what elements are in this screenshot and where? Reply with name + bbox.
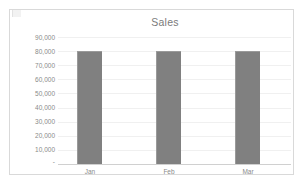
y-tick-label: 90,000	[11, 34, 55, 41]
x-tick-label-feb: Feb	[139, 168, 199, 176]
y-tick-label: 20,000	[11, 132, 55, 139]
gridline	[58, 37, 291, 38]
x-tick-label-mar: Mar	[218, 168, 278, 176]
y-tick-label: 50,000	[11, 90, 55, 97]
y-tick-label: 40,000	[11, 104, 55, 111]
y-tick-label: 10,000	[11, 146, 55, 153]
chart-title: Sales	[40, 14, 290, 31]
y-tick-label: 80,000	[11, 48, 55, 55]
y-tick-label: -	[11, 158, 55, 165]
y-tick-label: 30,000	[11, 118, 55, 125]
y-tick-label: 70,000	[11, 62, 55, 69]
y-tick-label: 60,000	[11, 76, 55, 83]
sales-bar-chart[interactable]: Sales 90,000 80,000 70,000 60,000 50,000…	[9, 9, 294, 175]
category-axis-line	[58, 164, 291, 165]
bar-jan[interactable]	[77, 51, 102, 164]
bar-mar[interactable]	[235, 51, 260, 164]
bar-feb[interactable]	[156, 51, 181, 164]
y-axis-tick-labels: 90,000 80,000 70,000 60,000 50,000 40,00…	[10, 10, 55, 176]
plot-area	[58, 37, 291, 164]
x-tick-label-jan: Jan	[60, 168, 120, 176]
